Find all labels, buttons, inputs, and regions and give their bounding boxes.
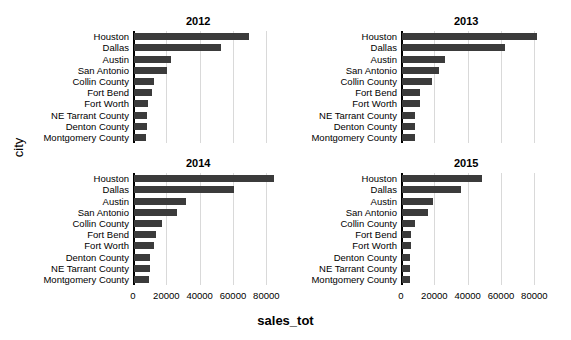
bar (402, 265, 410, 272)
category-label: San Antonio (269, 208, 397, 217)
category-label: Dallas (269, 185, 397, 194)
category-label: Houston (269, 174, 397, 183)
bar (402, 220, 415, 227)
bar (402, 231, 411, 238)
category-label: Fort Bend (269, 230, 397, 239)
facet-title: 2015 (454, 157, 478, 169)
gridline (534, 173, 535, 285)
facet-panel-2015: 2015HoustonDallasAustinSan AntonioCollin… (0, 0, 571, 340)
gridline (501, 173, 502, 285)
bar (402, 175, 482, 182)
x-tick-label: 80000 (509, 290, 559, 301)
gridline (468, 173, 469, 285)
category-label: NE Tarrant County (269, 264, 397, 273)
bar (402, 198, 433, 205)
x-axis-spine (401, 285, 402, 286)
category-label: Austin (269, 197, 397, 206)
category-label: Collin County (269, 219, 397, 228)
chart-figure: city sales_tot 2012HoustonDallasAustinSa… (0, 0, 571, 340)
bar (402, 276, 410, 283)
bar (402, 242, 411, 249)
category-label: Montgomery County (269, 275, 397, 284)
bar (402, 209, 428, 216)
category-label: Denton County (269, 253, 397, 262)
bar (402, 254, 410, 261)
bar (402, 186, 461, 193)
category-label: Fort Worth (269, 241, 397, 250)
